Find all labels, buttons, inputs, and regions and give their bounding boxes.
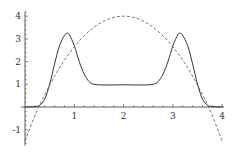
y-tick-label: 1	[15, 79, 21, 89]
y-tick-label: 2	[15, 57, 21, 67]
x-tick-label: 1	[71, 111, 77, 121]
data-series	[25, 16, 222, 141]
axis-ticks	[25, 12, 222, 144]
y-tick-label: -1	[12, 125, 21, 135]
x-tick-label: 2	[121, 111, 127, 121]
x-tick-label: 4	[219, 111, 225, 121]
tick-labels: 1234-11234	[12, 11, 225, 135]
y-tick-label: 4	[15, 11, 21, 21]
line-chart: 1234-11234	[0, 0, 242, 153]
solid-curve	[25, 33, 222, 107]
y-tick-label: 3	[15, 34, 21, 44]
dashed-curve	[25, 16, 222, 141]
x-tick-label: 3	[170, 111, 176, 121]
